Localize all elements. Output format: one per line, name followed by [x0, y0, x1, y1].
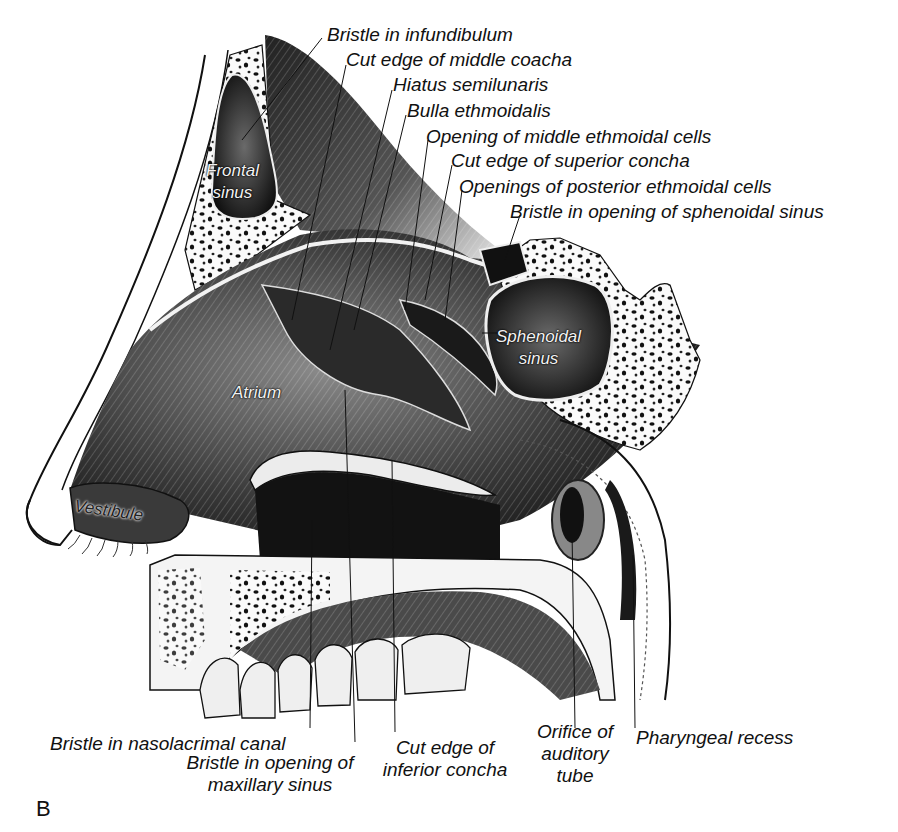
label-cut-edge-middle-concha: Cut edge of middle coacha: [346, 49, 572, 71]
nasal-cavity-illustration: [0, 0, 898, 832]
panel-letter: B: [36, 796, 51, 822]
label-bristle-infundibulum: Bristle in infundibulum: [327, 24, 513, 46]
label-frontal-sinus: Frontal sinus: [206, 160, 259, 204]
label-bristle-maxillary: Bristle in opening of maxillary sinus: [174, 752, 366, 796]
pharyngeal-recess: [605, 480, 636, 620]
label-opening-middle-ethmoidal: Opening of middle ethmoidal cells: [426, 126, 711, 148]
label-openings-posterior-ethmoidal: Openings of posterior ethmoidal cells: [459, 176, 772, 198]
label-bulla-ethmoidalis: Bulla ethmoidalis: [407, 100, 551, 122]
label-pharyngeal-recess: Pharyngeal recess: [636, 727, 793, 749]
label-orifice-auditory-tube: Orifice of auditory tube: [525, 721, 625, 787]
label-atrium: Atrium: [232, 382, 281, 404]
label-hiatus-semilunaris: Hiatus semilunaris: [393, 74, 548, 96]
label-bristle-sphenoidal: Bristle in opening of sphenoidal sinus: [510, 201, 824, 223]
label-cut-edge-inferior-concha: Cut edge of inferior concha: [375, 737, 515, 781]
label-cut-edge-superior-concha: Cut edge of superior concha: [451, 150, 690, 172]
label-sphenoidal-sinus: Sphenoidal sinus: [496, 326, 581, 370]
anatomy-figure: Bristle in infundibulum Cut edge of midd…: [0, 0, 898, 832]
